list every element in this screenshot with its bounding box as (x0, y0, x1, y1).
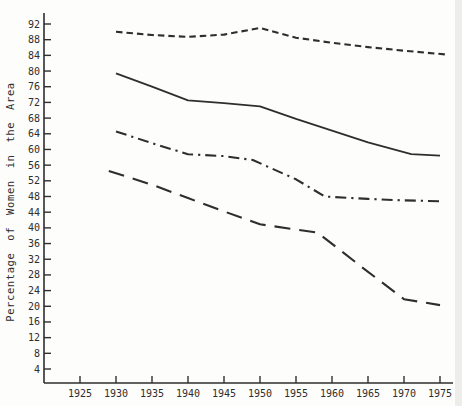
y-tick-label: 44 (28, 207, 40, 218)
x-tick-label: 1945 (212, 388, 236, 399)
x-tick-label: 1925 (68, 388, 92, 399)
y-tick-label: 92 (28, 19, 40, 30)
top-short-dash-line (116, 28, 447, 55)
y-tick-label: 72 (28, 97, 40, 108)
dash-dot-line (116, 131, 440, 201)
x-tick-label: 1935 (140, 388, 164, 399)
y-tick-label: 36 (28, 238, 40, 249)
y-tick-label: 68 (28, 113, 40, 124)
x-tick-label: 1965 (356, 388, 380, 399)
y-tick-label: 28 (28, 269, 40, 280)
y-tick-label: 16 (28, 316, 40, 327)
y-tick-label: 8 (34, 348, 40, 359)
x-tick-label: 1975 (428, 388, 452, 399)
y-tick-label: 12 (28, 332, 40, 343)
y-tick-label: 60 (28, 144, 40, 155)
x-tick-label: 1970 (392, 388, 416, 399)
y-tick-label: 52 (28, 175, 40, 186)
bottom-long-dash-line (109, 171, 440, 305)
y-tick-label: 84 (28, 50, 40, 61)
x-tick-label: 1930 (104, 388, 128, 399)
x-tick-label: 1950 (248, 388, 272, 399)
y-tick-label: 32 (28, 254, 40, 265)
plot-lines (109, 28, 447, 305)
chart-page: Percentage of Women in the Area 92888480… (0, 0, 462, 406)
y-tick-label: 48 (28, 191, 40, 202)
solid-line (116, 73, 440, 155)
y-tick-label: 4 (34, 364, 40, 375)
axes: 9288848076726864605652484440363228242016… (28, 13, 453, 399)
y-tick-label: 88 (28, 34, 40, 45)
x-tick-label: 1960 (320, 388, 344, 399)
y-tick-label: 80 (28, 66, 40, 77)
y-tick-label: 64 (28, 128, 40, 139)
y-tick-label: 24 (28, 285, 40, 296)
y-tick-label: 56 (28, 160, 40, 171)
y-tick-label: 20 (28, 301, 40, 312)
x-tick-label: 1955 (284, 388, 308, 399)
y-tick-label: 40 (28, 222, 40, 233)
scan-edge-artifact (455, 0, 462, 406)
line-chart: Percentage of Women in the Area 92888480… (0, 0, 462, 406)
y-tick-label: 76 (28, 81, 40, 92)
y-axis-title: Percentage of Women in the Area (4, 82, 16, 322)
x-tick-label: 1940 (176, 388, 200, 399)
